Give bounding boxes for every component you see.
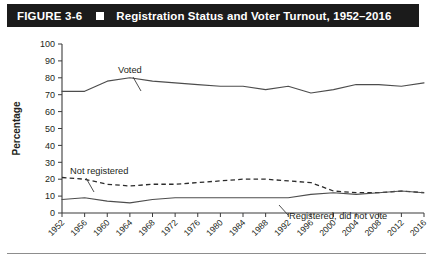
x-tick-label: 1988 (249, 217, 270, 238)
figure-title-bar: FIGURE 3-6 Registration Status and Voter… (7, 4, 419, 27)
line-chart: 0102030405060708090100195219561960196419… (0, 27, 433, 242)
series-annotation: Voted (118, 65, 142, 75)
x-tick-label: 1984 (227, 217, 248, 238)
x-tick-label: 1960 (91, 217, 112, 238)
x-tick-label: 1964 (114, 217, 135, 238)
y-tick-label: 0 (50, 208, 55, 218)
series-annotation: Registered, did not vote (289, 211, 387, 221)
chart-area: 0102030405060708090100195219561960196419… (0, 27, 433, 242)
figure-container: FIGURE 3-6 Registration Status and Voter… (0, 0, 433, 266)
y-tick-label: 70 (45, 90, 55, 100)
y-tick-label: 90 (45, 56, 55, 66)
y-tick-label: 80 (45, 73, 55, 83)
bottom-divider (7, 253, 426, 254)
figure-title: Registration Status and Voter Turnout, 1… (116, 10, 391, 22)
x-tick-label: 1952 (46, 217, 67, 238)
black-square-icon (96, 12, 104, 20)
y-tick-label: 60 (45, 107, 55, 117)
y-tick-label: 20 (45, 174, 55, 184)
x-tick-label: 1972 (159, 217, 180, 238)
x-tick-label: 1976 (182, 217, 203, 238)
x-tick-label: 1980 (204, 217, 225, 238)
y-tick-label: 40 (45, 141, 55, 151)
y-tick-label: 50 (45, 124, 55, 134)
x-tick-label: 1968 (136, 217, 157, 238)
x-tick-label: 1956 (68, 217, 89, 238)
series-line-voted (62, 78, 424, 93)
y-tick-label: 10 (45, 191, 55, 201)
figure-number: FIGURE 3-6 (17, 10, 82, 22)
y-tick-label: 100 (40, 39, 55, 49)
series-annotation: Not registered (70, 166, 128, 176)
series-line-not-registered (62, 178, 424, 193)
y-tick-label: 30 (45, 158, 55, 168)
y-axis-title: Percentage (11, 101, 22, 155)
x-tick-label: 2012 (385, 217, 406, 238)
x-tick-label: 2016 (408, 217, 429, 238)
